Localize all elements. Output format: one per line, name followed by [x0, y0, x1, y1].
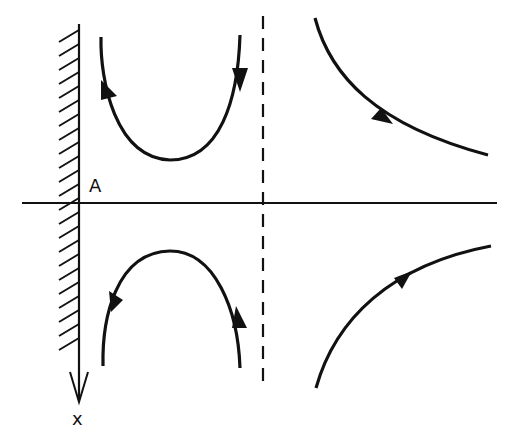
wall-hatching: [59, 30, 79, 350]
trajectory-lower-left: [103, 251, 247, 368]
trajectory-upper-right: [315, 18, 488, 155]
wall: [59, 24, 79, 400]
arrow-up-right-icon: [394, 271, 412, 289]
arrow-up-icon: [232, 306, 247, 328]
trajectory-lower-right: [316, 246, 491, 388]
trajectory-upper-left: [101, 35, 248, 160]
label-point-a: A: [89, 177, 101, 195]
phase-diagram: [0, 0, 508, 442]
label-axis-x: x: [72, 410, 83, 428]
arrow-up-icon: [101, 80, 117, 100]
